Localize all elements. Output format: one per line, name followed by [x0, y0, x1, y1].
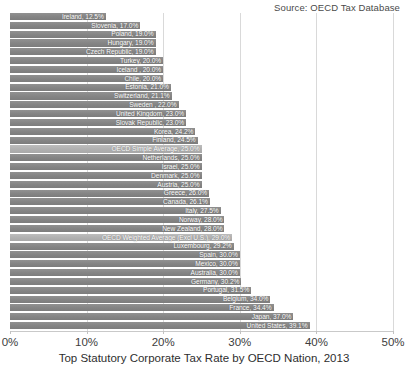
bar-label: Turkey, 20.0% [120, 56, 163, 65]
bar-label: OECD Weighted Average (Excl U.S.), 29.0% [102, 233, 232, 242]
bar-label: Ireland, 12.5% [62, 12, 106, 21]
bar-row: United States, 39.1% [10, 322, 393, 331]
bar-label: Australia, 30.0% [191, 268, 240, 277]
bar-label: Denmark, 25.0% [151, 171, 201, 180]
x-tick-label: 20% [152, 336, 175, 348]
bar-row: Estonia, 21.0% [10, 84, 393, 93]
gridline [393, 13, 394, 331]
bar-label: Greece, 26.0% [164, 188, 209, 197]
bar-row: Sweden , 22.0% [10, 101, 393, 110]
bar-label: Austria, 25.0% [157, 180, 201, 189]
bar-row: Israel, 25.0% [10, 163, 393, 172]
bar-label: Italy, 27.5% [185, 206, 220, 215]
bar-label: Sweden , 22.0% [129, 100, 178, 109]
bar-label: Germany, 30.2% [191, 277, 241, 286]
bar-row: Slovenia, 17.0% [10, 22, 393, 31]
bar-row: Germany, 30.2% [10, 278, 393, 287]
x-tick-label: 40% [305, 336, 328, 348]
bar-label: Portugal, 31.5% [203, 285, 251, 294]
chart-container: Source: OECD Tax Database Ireland, 12.5%… [0, 0, 408, 369]
bar-label: Slovenia, 17.0% [91, 21, 140, 30]
bar-row: Belgium, 34.0% [10, 296, 393, 305]
bar-label: Hungary, 19.0% [107, 38, 155, 47]
bar-label: Poland, 19.0% [111, 29, 155, 38]
source-note: Source: OECD Tax Database [274, 2, 400, 13]
plot-area: Ireland, 12.5%Slovenia, 17.0%Poland, 19.… [10, 13, 393, 331]
bar-row: Japan, 37.0% [10, 313, 393, 322]
bar-label: Mexico, 30.0% [195, 259, 240, 268]
bar-row: Netherlands, 25.0% [10, 154, 393, 163]
x-axis-line [10, 331, 393, 332]
bar-row: Denmark, 25.0% [10, 172, 393, 181]
bar-label: Japan, 37.0% [252, 312, 294, 321]
tick-mark [87, 331, 88, 334]
bar-row: Iceland , 20.0% [10, 66, 393, 75]
bar-label: Iceland , 20.0% [116, 65, 163, 74]
bar-label: Chile, 20.0% [124, 74, 163, 83]
bar-row: Chile, 20.0% [10, 75, 393, 84]
x-tick-label: 0% [2, 336, 19, 348]
bar-label: Luxembourg, 29.2% [174, 241, 234, 250]
bar-label: United States, 39.1% [247, 321, 310, 330]
bar-label: Korea, 24.2% [154, 127, 195, 136]
bar-row: OECD Simple Average, 25.0% [10, 145, 393, 154]
bar-row: Poland, 19.0% [10, 31, 393, 40]
bar-label: Netherlands, 25.0% [142, 153, 201, 162]
bar-row: Portugal, 31.5% [10, 287, 393, 296]
bar-row: United Kingdom, 23.0% [10, 110, 393, 119]
bar-row: Slovak Republic, 23.0% [10, 119, 393, 128]
x-tick-label: 50% [381, 336, 404, 348]
bar-label: Canada, 26.1% [163, 197, 210, 206]
bar-row: Switzerland, 21.1% [10, 92, 393, 101]
x-tick-label: 30% [228, 336, 251, 348]
bar-row: Turkey, 20.0% [10, 57, 393, 66]
bar-label: Spain, 30.0% [199, 250, 240, 259]
chart-title: Top Statutory Corporate Tax Rate by OECD… [0, 352, 408, 364]
tick-mark [163, 331, 164, 334]
bar-label: Slovak Republic, 23.0% [116, 118, 187, 127]
bar-label: Belgium, 34.0% [223, 294, 270, 303]
bar-row: Korea, 24.2% [10, 128, 393, 137]
bar-label: Norway, 28.0% [179, 215, 225, 224]
bar-label: France, 34.4% [229, 303, 273, 312]
tick-mark [10, 331, 11, 334]
bar-series: Ireland, 12.5%Slovenia, 17.0%Poland, 19.… [10, 13, 393, 331]
tick-mark [393, 331, 394, 334]
bar-label: United Kingdom, 23.0% [116, 109, 186, 118]
x-tick-label: 10% [75, 336, 98, 348]
bar-row: Czech Republic, 19.0% [10, 48, 393, 57]
bar-label: Finland, 24.5% [152, 135, 197, 144]
bar-row: France, 34.4% [10, 304, 393, 313]
bar-label: Czech Republic, 19.0% [86, 47, 156, 56]
bar-label: Israel, 25.0% [162, 162, 202, 171]
tick-mark [240, 331, 241, 334]
tick-mark [316, 331, 317, 334]
bar-label: OECD Simple Average, 25.0% [111, 144, 201, 153]
bar-row: Finland, 24.5% [10, 137, 393, 146]
bar-label: New Zealand, 28.0% [162, 224, 224, 233]
bar-label: Switzerland, 21.1% [114, 91, 172, 100]
bar-row: Ireland, 12.5% [10, 13, 393, 22]
bar-label: Estonia, 21.0% [125, 82, 171, 91]
bar-row: Hungary, 19.0% [10, 39, 393, 48]
